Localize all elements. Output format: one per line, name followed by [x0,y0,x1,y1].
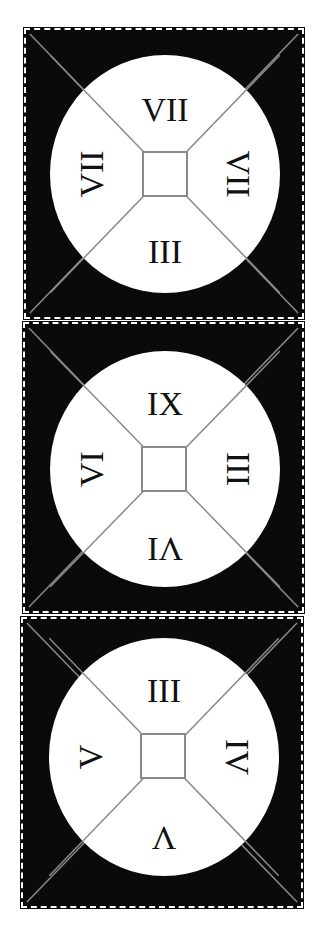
label-right: III [221,452,255,486]
dial-circle: IX VI VI III [50,351,280,587]
center-square [142,151,188,197]
label-bottom: VI [147,532,183,566]
label-left: VI [75,451,109,487]
label-bottom: V [152,821,177,855]
label-top: VII [141,93,188,127]
label-left: V [74,745,108,770]
dial-circle: III V V IV [49,638,279,876]
center-square [141,446,187,492]
dial-circle: VII III VII VII [50,55,280,293]
label-top: III [147,674,181,708]
panel-2: IX VI VI III [23,322,304,613]
panel-3: III V V IV [21,617,303,908]
label-right: VII [221,150,255,197]
label-right: IV [220,739,254,775]
label-bottom: III [148,235,182,269]
label-left: VII [75,150,109,197]
label-top: IX [147,387,183,421]
panel-1: VII III VII VII [24,28,304,319]
center-square [140,733,186,779]
